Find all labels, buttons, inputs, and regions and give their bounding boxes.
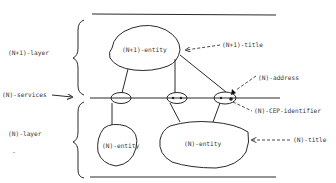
n-entity-right-label: (N)-entity	[184, 140, 222, 148]
connector	[180, 55, 226, 92]
n-title-label: (N)-title	[293, 136, 327, 143]
n-plus-1-layer-label: (N+1)-layer	[8, 49, 49, 57]
n-plus-1-title-pointer	[186, 45, 220, 50]
connector	[213, 103, 220, 122]
dash-mark: -	[12, 148, 16, 155]
n-layer-label: (N)-layer	[8, 130, 42, 138]
cep-dot	[220, 97, 222, 99]
n-address-pointer	[236, 76, 256, 90]
top-boundary-line	[92, 14, 276, 15]
lower-layer-brace	[73, 102, 84, 178]
n-plus-1-entity-label: (N+1)-entity	[122, 46, 167, 54]
n-entity-left-label: (N)-entity	[102, 142, 140, 150]
connector	[170, 103, 180, 122]
cep-dot	[229, 97, 233, 101]
osi-layer-diagram: (N+1)-layer (N)-services (N)-layer - (N+…	[0, 0, 336, 183]
connector	[122, 69, 128, 93]
n-services-label: (N)-services	[2, 91, 47, 98]
n-plus-1-title-label: (N+1)-title	[222, 41, 263, 48]
cep-dot	[172, 97, 174, 99]
upper-layer-brace	[73, 20, 84, 95]
n-address-label: (N)-address	[258, 74, 299, 81]
n-services-arrow	[52, 95, 72, 97]
n-cep-identifier-pointer	[233, 102, 252, 111]
n-cep-identifier-label: (N)-CEP-identifier	[254, 107, 321, 114]
cep-dot	[180, 97, 182, 99]
